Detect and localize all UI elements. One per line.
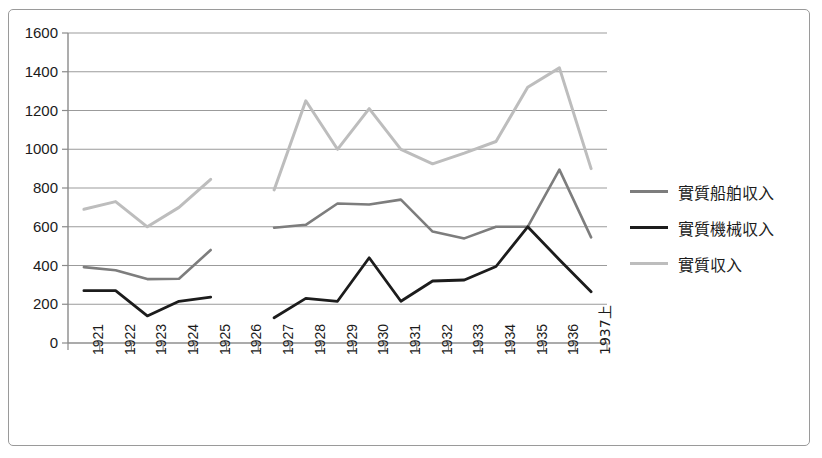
y-tick-label: 0 xyxy=(4,335,58,350)
y-tick-label: 1600 xyxy=(4,25,58,40)
legend-item-label: 實質収入 xyxy=(678,252,742,276)
legend-line-swatch xyxy=(630,190,668,193)
legend-item-label: 實質機械収入 xyxy=(678,216,774,240)
chart-legend: 實質船舶収入實質機械収入實質収入 xyxy=(630,176,810,284)
y-tick-label: 400 xyxy=(4,258,58,273)
gridlines xyxy=(68,33,607,343)
x-tick-label: 1934 xyxy=(503,324,517,355)
x-tick-label: 1937上 xyxy=(598,305,612,355)
series-line xyxy=(84,179,211,227)
y-tick-label: 800 xyxy=(4,180,58,195)
x-tick-label: 1932 xyxy=(440,324,454,355)
x-tick-label: 1930 xyxy=(376,324,390,355)
legend-item: 實質機械収入 xyxy=(630,212,810,248)
series-line xyxy=(84,250,211,279)
legend-line-swatch xyxy=(630,226,668,229)
legend-line-swatch xyxy=(630,262,668,265)
y-axis-ticks xyxy=(62,33,68,343)
x-tick-label: 1923 xyxy=(154,324,168,355)
y-tick-label: 1400 xyxy=(4,64,58,79)
x-tick-label: 1924 xyxy=(186,324,200,355)
x-tick-label: 1929 xyxy=(345,324,359,355)
x-axis-ticks xyxy=(68,343,607,350)
x-tick-label: 1927 xyxy=(281,324,295,355)
y-tick-label: 1200 xyxy=(4,103,58,118)
x-tick-label: 1935 xyxy=(535,324,549,355)
series-lines xyxy=(84,68,591,318)
x-tick-label: 1928 xyxy=(313,324,327,355)
x-tick-label: 1925 xyxy=(218,324,232,355)
x-tick-label: 1931 xyxy=(408,324,422,355)
series-line xyxy=(274,68,591,190)
x-tick-label: 1926 xyxy=(249,324,263,355)
legend-item: 實質収入 xyxy=(630,248,810,284)
x-tick-label: 1933 xyxy=(471,324,485,355)
x-tick-label: 1921 xyxy=(91,324,105,355)
y-tick-label: 200 xyxy=(4,296,58,311)
series-line xyxy=(84,291,211,316)
x-tick-label: 1922 xyxy=(123,324,137,355)
y-tick-label: 600 xyxy=(4,219,58,234)
legend-item: 實質船舶収入 xyxy=(630,176,810,212)
legend-item-label: 實質船舶収入 xyxy=(678,180,774,204)
chart-screenshot: 16001400120010008006004002000 1921192219… xyxy=(0,0,822,458)
x-tick-label: 1936 xyxy=(566,324,580,355)
series-line xyxy=(274,170,591,239)
y-tick-label: 1000 xyxy=(4,141,58,156)
